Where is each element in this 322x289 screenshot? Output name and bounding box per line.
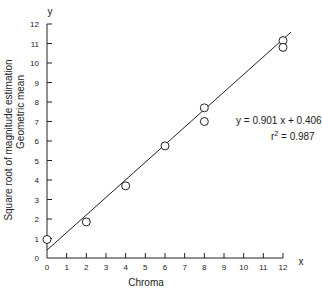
y-tick-label: 10 <box>30 59 39 68</box>
tick-marks: 01234567891011120123456789101112 <box>30 20 288 272</box>
x-tick-label: 1 <box>64 263 69 272</box>
y-axis-letter: y <box>48 6 53 17</box>
y-tick-label: 8 <box>35 98 40 107</box>
x-axis-label: Chroma <box>128 277 164 288</box>
data-point <box>279 43 287 51</box>
x-tick-label: 11 <box>259 263 268 272</box>
x-tick-label: 5 <box>143 263 148 272</box>
y-tick-label: 3 <box>35 196 40 205</box>
data-point <box>161 142 169 150</box>
data-points <box>43 37 287 244</box>
x-tick-label: 7 <box>182 263 187 272</box>
data-point <box>82 218 90 226</box>
y-tick-label: 11 <box>31 40 40 49</box>
regression-equation: y = 0.901 x + 0.406 <box>236 115 322 126</box>
x-tick-label: 12 <box>279 263 288 272</box>
r-squared-value: = 0.987 <box>278 131 314 142</box>
y-tick-label: 9 <box>35 79 40 88</box>
y-tick-label: 4 <box>35 176 40 185</box>
y-axis-label-line2: Geometric mean <box>15 75 26 149</box>
x-tick-label: 3 <box>104 263 109 272</box>
x-tick-label: 10 <box>239 263 248 272</box>
y-tick-label: 7 <box>35 118 40 127</box>
x-tick-label: 2 <box>84 263 89 272</box>
x-tick-label: 6 <box>163 263 168 272</box>
y-tick-label: 6 <box>35 137 40 146</box>
y-tick-label: 1 <box>35 235 40 244</box>
data-point <box>43 235 51 243</box>
regression-line <box>47 32 291 250</box>
y-tick-label: 5 <box>35 157 40 166</box>
data-point <box>200 118 208 126</box>
y-tick-label: 0 <box>35 254 40 263</box>
y-tick-label: 12 <box>30 20 39 29</box>
y-axis-label-line1: Square root of magnitude estimation <box>3 59 14 220</box>
x-tick-label: 0 <box>45 263 50 272</box>
data-point <box>122 182 130 190</box>
x-tick-label: 4 <box>123 263 128 272</box>
x-axis-letter: x <box>299 256 304 267</box>
y-tick-label: 2 <box>35 215 40 224</box>
x-tick-label: 9 <box>222 263 227 272</box>
x-tick-label: 8 <box>202 263 207 272</box>
r-squared: r2 = 0.987 <box>271 130 315 142</box>
data-point <box>200 104 208 112</box>
